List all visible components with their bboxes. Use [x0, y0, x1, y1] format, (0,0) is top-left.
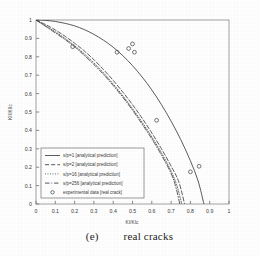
- caption-label: (e): [86, 230, 99, 242]
- legend-item-label: experimental data [real crack]: [63, 190, 122, 195]
- y-tick-label: 0.9: [25, 35, 32, 41]
- legend-item-label: s/p=2 [analytical prediction]: [63, 162, 117, 167]
- y-tick-label: 0.6: [25, 91, 32, 97]
- legend-item-label: s/p=16 [analytical prediction]: [63, 172, 120, 177]
- x-tick-label: 1: [228, 208, 231, 214]
- x-tick-label: 0.7: [167, 208, 174, 214]
- x-tick-label: 0.2: [71, 208, 78, 214]
- legend-item-label: s/p=256 [analytical prediction]: [63, 181, 122, 186]
- x-tick-label: 0.5: [129, 208, 136, 214]
- legend-item-label: s/p=1 [analytical prediction]: [63, 153, 117, 158]
- x-tick-label: 0.6: [148, 208, 155, 214]
- y-tick-label: 0.2: [25, 164, 32, 170]
- figure-container: 00.10.20.30.40.50.60.70.80.91 00.10.20.3…: [0, 0, 259, 256]
- x-axis-tick-labels: 00.10.20.30.40.50.60.70.80.91: [35, 208, 231, 214]
- y-tick-label: 0.1: [25, 183, 32, 189]
- x-tick-label: 0.3: [90, 208, 97, 214]
- y-axis-title: KII/KIIc: [8, 104, 13, 120]
- y-tick-label: 0.5: [25, 109, 32, 115]
- x-axis-title: KI/KIc: [126, 220, 139, 225]
- y-tick-label: 0.3: [25, 146, 32, 152]
- y-tick-label: 1: [29, 17, 32, 23]
- x-tick-label: 0.1: [52, 208, 59, 214]
- figure-caption: (e) real cracks: [0, 230, 259, 242]
- x-tick-label: 0.8: [187, 208, 194, 214]
- x-tick-label: 0.9: [206, 208, 213, 214]
- y-tick-label: 0: [29, 201, 32, 207]
- x-tick-label: 0: [35, 208, 38, 214]
- y-tick-label: 0.7: [25, 72, 32, 78]
- y-axis-tick-labels: 00.10.20.30.40.50.60.70.80.91: [25, 17, 32, 207]
- caption-text: real cracks: [124, 230, 174, 242]
- legend: s/p=1 [analytical prediction]s/p=2 [anal…: [41, 148, 144, 198]
- y-tick-label: 0.4: [25, 127, 32, 133]
- plot-area: 00.10.20.30.40.50.60.70.80.91 00.10.20.3…: [0, 0, 259, 256]
- x-tick-label: 0.4: [110, 208, 117, 214]
- y-tick-label: 0.8: [25, 54, 32, 60]
